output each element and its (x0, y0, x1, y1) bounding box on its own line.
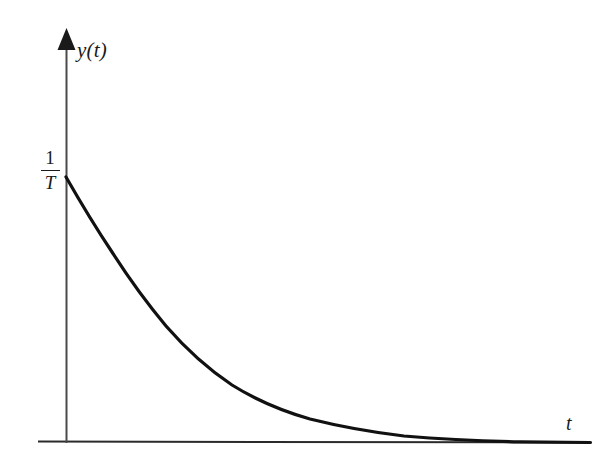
fraction-bar (41, 170, 60, 171)
fraction-numerator: 1 (36, 148, 64, 169)
y-axis-arrowhead-icon (58, 28, 76, 50)
fraction-denominator: T (36, 172, 64, 193)
plot-canvas (0, 0, 611, 467)
y-intercept-fraction-label: 1 T (36, 148, 64, 193)
y-axis-label: y(t) (77, 38, 107, 63)
exponential-decay-curve (66, 177, 590, 443)
exponential-decay-figure: y(t) t 1 T (0, 0, 611, 467)
t-axis-label: t (566, 412, 572, 435)
